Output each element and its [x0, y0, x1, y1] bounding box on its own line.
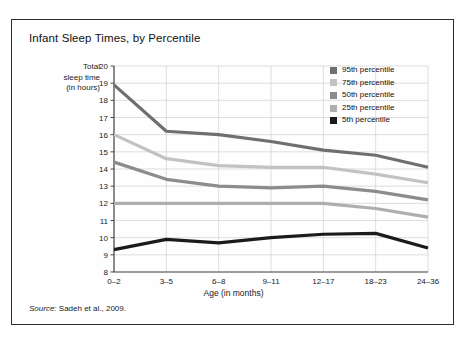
y-tick-label: 20	[99, 62, 108, 71]
source-note: Source: Sadeh et al., 2009.	[29, 304, 126, 313]
legend-swatch-icon	[330, 79, 337, 86]
y-tick-label: 16	[99, 131, 108, 140]
legend-item: 95th percentile	[330, 64, 394, 77]
x-tick-label: 12–17	[312, 277, 335, 286]
y-tick-label: 10	[99, 234, 108, 243]
x-tick-label: 0–2	[107, 277, 121, 286]
legend-label: 25th percentile	[342, 102, 394, 115]
y-tick-label: 18	[99, 96, 108, 105]
y-tick-label: 19	[99, 79, 108, 88]
y-tick-label: 9	[104, 251, 109, 260]
x-tick-label: 24–36	[417, 277, 440, 286]
legend-label: 5th percentile	[342, 114, 390, 127]
x-axis-ticks: 0–23–56–89–1112–1718–2324–36	[107, 277, 439, 286]
x-tick-label: 6–8	[212, 277, 226, 286]
y-tick-label: 15	[99, 148, 108, 157]
chart-legend: 95th percentile75th percentile50th perce…	[330, 64, 394, 127]
source-keyword: Source:	[29, 304, 57, 313]
x-axis-title: Age (in months)	[12, 288, 455, 298]
figure-frame: Infant Sleep Times, by Percentile Total …	[11, 19, 454, 325]
y-tick-label: 11	[100, 217, 109, 226]
legend-item: 75th percentile	[330, 77, 394, 90]
y-tick-label: 13	[99, 182, 108, 191]
y-axis-ticks: 891011121314151617181920	[99, 62, 108, 277]
source-citation: Sadeh et al., 2009.	[57, 304, 126, 313]
legend-item: 25th percentile	[330, 102, 394, 115]
legend-label: 75th percentile	[342, 77, 394, 90]
legend-label: 95th percentile	[342, 64, 394, 77]
x-tick-label: 18–23	[365, 277, 388, 286]
legend-swatch-icon	[330, 67, 337, 74]
y-tick-label: 17	[99, 114, 108, 123]
legend-label: 50th percentile	[342, 89, 394, 102]
legend-swatch-icon	[330, 92, 337, 99]
y-tick-label: 14	[99, 165, 108, 174]
legend-item: 5th percentile	[330, 114, 394, 127]
legend-item: 50th percentile	[330, 89, 394, 102]
x-tick-label: 3–5	[160, 277, 174, 286]
legend-swatch-icon	[330, 117, 337, 124]
y-tick-label: 8	[104, 268, 109, 277]
x-tick-label: 9–11	[262, 277, 280, 286]
legend-swatch-icon	[330, 105, 337, 112]
y-tick-label: 12	[99, 199, 108, 208]
